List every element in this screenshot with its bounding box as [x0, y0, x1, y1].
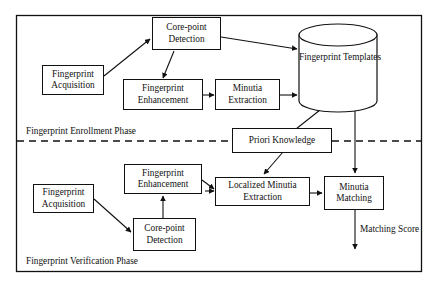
- node-label-line2: Acquisition: [42, 199, 85, 210]
- edge-corepoint-to-enhancement: [163, 51, 174, 78]
- db-label-line2: Templates: [343, 52, 381, 62]
- edge-corepoint-to-templates: [221, 37, 297, 49]
- node-label-line2: Matching: [336, 193, 372, 204]
- node-label-line2: Detection: [168, 34, 204, 45]
- edge-priori-to-localized: [264, 152, 283, 174]
- node-label-line1: Fingerprint: [52, 69, 94, 80]
- phase-label-text: Fingerprint Enrollment Phase: [26, 126, 136, 136]
- edge-v-enhancement-to-localized: [202, 180, 214, 189]
- edge-acquisition-to-corepoint: [104, 39, 150, 76]
- phase-label-verification: Fingerprint Verification Phase: [24, 256, 140, 267]
- node-label-line1: Fingerprint: [142, 168, 184, 179]
- node-localized-minutia-extraction[interactable]: Localized Minutia Extraction: [215, 177, 310, 206]
- output-label-line2: Score: [398, 224, 419, 234]
- node-fingerprint-acquisition-verification[interactable]: Fingerprint Acquisition: [33, 184, 94, 213]
- node-label-line2: Enhancement: [138, 179, 189, 190]
- node-core-point-detection-verification[interactable]: Core-point Detection: [133, 218, 196, 251]
- output-label-matching-score: Matching Score: [360, 224, 414, 235]
- node-label-line1: Core-point: [166, 22, 206, 33]
- edge-v-acquisition-to-corepoint: [94, 199, 131, 232]
- node-label-line1: Minutia: [339, 182, 368, 193]
- node-fingerprint-enhancement-verification[interactable]: Fingerprint Enhancement: [124, 164, 202, 194]
- phase-label-enrollment: Fingerprint Enrollment Phase: [24, 126, 138, 137]
- node-label-line2: Extraction: [243, 192, 282, 203]
- node-minutia-extraction-enrollment[interactable]: Minutia Extraction: [215, 79, 280, 110]
- node-minutia-matching[interactable]: Minutia Matching: [324, 176, 384, 210]
- node-fingerprint-acquisition-enrollment[interactable]: Fingerprint Acquisition: [42, 65, 104, 95]
- database-label-fingerprint-templates: Fingerprint Templates: [299, 52, 377, 63]
- node-label-line1: Fingerprint: [43, 187, 85, 198]
- edge-templates-to-priori: [296, 110, 320, 129]
- node-label-line1: Localized Minutia: [228, 180, 296, 191]
- node-label-line1: Minutia: [233, 83, 262, 94]
- node-label-line1: Core-point: [144, 223, 184, 234]
- node-label-line1: Priori Knowledge: [249, 135, 315, 146]
- database-cylinder: [299, 24, 377, 112]
- node-label-line2: Acquisition: [51, 80, 94, 91]
- flow-diagram: Fingerprint Acquisition Core-point Detec…: [0, 0, 437, 286]
- node-label-line2: Extraction: [228, 95, 267, 106]
- node-label-line2: Enhancement: [138, 95, 189, 106]
- phase-label-text: Fingerprint Verification Phase: [26, 256, 138, 266]
- node-label-line2: Detection: [146, 235, 182, 246]
- node-priori-knowledge[interactable]: Priori Knowledge: [232, 128, 332, 153]
- node-core-point-detection-enrollment[interactable]: Core-point Detection: [152, 17, 221, 50]
- db-label-line1: Fingerprint: [299, 52, 341, 62]
- output-label-line1: Matching: [360, 224, 396, 234]
- node-fingerprint-enhancement-enrollment[interactable]: Fingerprint Enhancement: [123, 79, 203, 110]
- node-label-line1: Fingerprint: [142, 83, 184, 94]
